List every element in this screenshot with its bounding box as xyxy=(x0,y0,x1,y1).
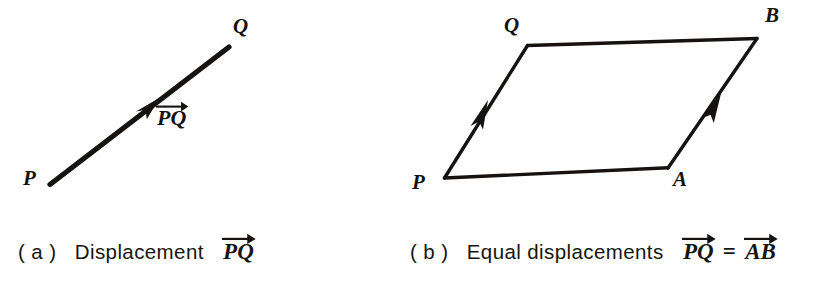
point-label-a-panel-b: A xyxy=(673,169,687,190)
vector-displacement-figure: P Q PQ P Q B A ( a ) Displacement xyxy=(0,0,818,300)
point-label-q-panel-b: Q xyxy=(504,15,519,36)
caption-a-prefix: ( a ) xyxy=(18,240,56,263)
caption-panel-b: ( b ) Equal displacements PQ = AB xyxy=(410,240,777,263)
caption-panel-a: ( a ) Displacement PQ xyxy=(18,240,255,263)
caption-b-vector-pq-text: PQ xyxy=(683,239,714,264)
point-label-p-panel-a: P xyxy=(23,168,36,189)
caption-b-relation: = xyxy=(721,240,739,263)
caption-a-vector-pq-text: PQ xyxy=(223,239,254,264)
point-label-p-panel-b: P xyxy=(412,172,425,193)
segment-pa-b xyxy=(445,168,669,178)
vector-label-pq-panel-a: PQ xyxy=(156,107,187,129)
caption-a-word: Displacement xyxy=(75,240,204,263)
caption-a-vector-pq: PQ xyxy=(222,240,255,263)
caption-b-prefix: ( b ) xyxy=(410,240,448,263)
panel-b-arrowheads xyxy=(471,94,722,130)
caption-b-vector-ab: AB xyxy=(744,240,777,263)
vector-pq-glyph: PQ xyxy=(156,107,187,129)
arrowhead-ab-b xyxy=(702,94,722,124)
caption-b-vector-ab-text: AB xyxy=(745,239,776,264)
segment-ab-b xyxy=(668,39,757,169)
panel-a-diagram xyxy=(50,47,229,185)
point-label-b-panel-b: B xyxy=(765,5,779,26)
caption-b-vector-pq: PQ xyxy=(682,240,715,263)
caption-b-word: Equal displacements xyxy=(467,240,664,263)
point-label-q-panel-a: Q xyxy=(233,16,248,37)
segment-qb-b xyxy=(528,39,758,46)
segment-pq-a xyxy=(50,47,229,185)
vector-pq-text: PQ xyxy=(157,105,186,130)
